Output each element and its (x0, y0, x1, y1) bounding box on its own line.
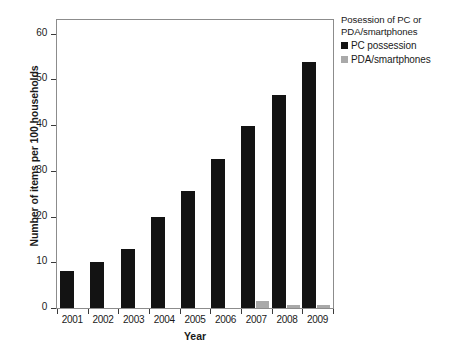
bar-group (272, 20, 300, 308)
chart-legend: Posession of PC or PDA/smartphones PC po… (341, 14, 457, 66)
legend-swatch (341, 42, 348, 49)
legend-label: PDA/smartphones (351, 53, 431, 66)
x-axis-label-2007: 2007 (242, 314, 270, 326)
y-axis-tick-label: 20 (36, 210, 47, 221)
bar-pc-possession (151, 217, 165, 308)
bar-group (211, 20, 239, 308)
bar-group (121, 20, 149, 308)
y-axis-tick-label: 10 (36, 255, 47, 266)
bar-group (302, 20, 330, 308)
x-axis-title: Year (57, 330, 333, 342)
y-axis: 0102030405060 (0, 19, 56, 309)
legend-item: PC possession (341, 39, 457, 52)
bar-pc-possession (60, 271, 74, 308)
x-axis-labels: 200120022003200420052006200720082009 (57, 314, 333, 326)
legend-items: PC possessionPDA/smartphones (341, 39, 457, 66)
bar-pc-possession (181, 191, 195, 308)
x-axis-label-2004: 2004 (150, 314, 178, 326)
x-axis-label-2001: 2001 (58, 314, 86, 326)
x-axis-label-2009: 2009 (304, 314, 332, 326)
bar-pc-possession (272, 95, 286, 308)
bar-pc-possession (302, 62, 316, 308)
bar-group (151, 20, 179, 308)
bar-group (241, 20, 269, 308)
y-axis-tick-label: 30 (36, 164, 47, 175)
bar-series-container (57, 20, 333, 308)
bar-pc-possession (241, 126, 255, 308)
bar-group (60, 20, 88, 308)
x-axis-tick-mark (333, 309, 334, 314)
y-axis-tick-label: 60 (36, 27, 47, 38)
y-axis-tick-label: 40 (36, 118, 47, 129)
x-axis-label-2003: 2003 (120, 314, 148, 326)
bar-pda-smartphones (287, 305, 300, 308)
y-axis-tick-label: 0 (42, 301, 47, 312)
x-axis-label-2002: 2002 (89, 314, 117, 326)
bar-group (181, 20, 209, 308)
legend-swatch (341, 56, 348, 63)
bar-pc-possession (211, 159, 225, 308)
bar-pda-smartphones (317, 305, 330, 308)
bar-chart-figure: Number of items per 100 households 01020… (0, 0, 457, 364)
x-axis-label-2006: 2006 (212, 314, 240, 326)
plot-area (57, 20, 333, 308)
x-axis-label-2008: 2008 (273, 314, 301, 326)
bar-pc-possession (90, 262, 104, 308)
legend-item: PDA/smartphones (341, 53, 457, 66)
legend-title: Posession of PC or PDA/smartphones (341, 14, 457, 37)
bar-group (90, 20, 118, 308)
bar-pc-possession (121, 249, 135, 308)
y-axis-tick-label: 50 (36, 72, 47, 83)
x-axis-label-2005: 2005 (181, 314, 209, 326)
bar-pda-smartphones (256, 301, 269, 308)
legend-label: PC possession (351, 39, 416, 52)
